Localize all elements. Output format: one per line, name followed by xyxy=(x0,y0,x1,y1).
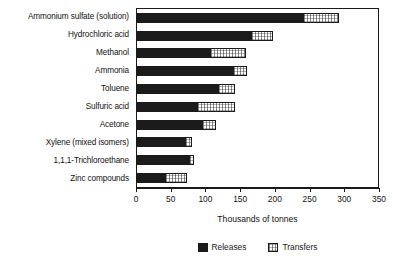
bar-segment-releases xyxy=(137,173,165,183)
chart-legend: Releases Transfers xyxy=(136,242,379,252)
x-axis-tick-label: 150 xyxy=(233,194,247,204)
category-label: Ammonia xyxy=(0,62,133,80)
bar-segment-releases xyxy=(137,120,202,130)
bar-segment-transfers xyxy=(202,120,216,130)
x-axis-tick-label: 200 xyxy=(268,194,282,204)
x-axis-title: Thousands of tonnes xyxy=(136,214,379,224)
bar-segment-transfers xyxy=(189,155,194,165)
bar-segment-transfers xyxy=(251,31,273,41)
legend-entry-releases: Releases xyxy=(198,242,247,252)
category-label: Hydrochloric acid xyxy=(0,26,133,44)
x-axis-tick xyxy=(171,188,172,192)
bar-stack xyxy=(137,66,247,76)
x-axis-tick xyxy=(275,188,276,192)
filled-black-swatch-icon xyxy=(198,243,208,252)
x-axis-tick xyxy=(379,188,380,192)
bar-segment-transfers xyxy=(197,102,235,112)
x-axis-tick xyxy=(310,188,311,192)
x-axis-tick-label: 100 xyxy=(198,194,212,204)
bar-stack xyxy=(137,173,187,183)
category-label: Toluene xyxy=(0,80,133,98)
legend-label: Releases xyxy=(212,242,247,252)
bar-segment-releases xyxy=(137,84,218,94)
legend-label: Transfers xyxy=(282,242,317,252)
bar-row xyxy=(137,134,378,152)
bar-stack xyxy=(137,137,192,147)
category-label: Xylene (mixed isomers) xyxy=(0,134,133,152)
bar-stack xyxy=(137,84,235,94)
stacked-bar-chart: Ammonium sulfate (solution) Hydrochloric… xyxy=(0,0,393,270)
bar-row xyxy=(137,116,378,134)
category-label: Acetone xyxy=(0,116,133,134)
bar-segment-transfers xyxy=(185,137,192,147)
bar-segment-transfers xyxy=(210,48,246,58)
bar-segment-releases xyxy=(137,155,189,165)
bar-segment-releases xyxy=(137,137,185,147)
bar-row xyxy=(137,62,378,80)
x-axis-tick-label: 350 xyxy=(372,194,386,204)
x-axis-tick xyxy=(344,188,345,192)
x-axis: 050100150200250300350 xyxy=(136,188,379,189)
bars-container xyxy=(137,9,378,187)
category-label: Zinc compounds xyxy=(0,170,133,188)
bar-segment-releases xyxy=(137,66,233,76)
bar-row xyxy=(137,27,378,45)
bar-stack xyxy=(137,31,273,41)
bar-stack xyxy=(137,48,246,58)
bar-stack xyxy=(137,155,194,165)
x-axis-tick xyxy=(240,188,241,192)
bar-row xyxy=(137,80,378,98)
bar-segment-transfers xyxy=(233,66,247,76)
bar-stack xyxy=(137,13,339,23)
x-axis-tick-label: 0 xyxy=(134,194,139,204)
x-axis-tick-label: 50 xyxy=(166,194,175,204)
bar-segment-transfers xyxy=(303,13,339,23)
bar-row xyxy=(137,9,378,27)
bar-stack xyxy=(137,102,235,112)
bar-row xyxy=(137,169,378,187)
category-label: Ammonium sulfate (solution) xyxy=(0,8,133,26)
bar-segment-releases xyxy=(137,13,303,23)
bar-segment-transfers xyxy=(218,84,235,94)
bar-stack xyxy=(137,120,216,130)
category-axis-labels: Ammonium sulfate (solution) Hydrochloric… xyxy=(0,8,133,188)
bar-segment-releases xyxy=(137,102,197,112)
x-axis-tick xyxy=(136,188,137,192)
category-label: 1,1,1-Trichloroethane xyxy=(0,152,133,170)
bar-row xyxy=(137,45,378,63)
bar-row xyxy=(137,98,378,116)
hatched-white-swatch-icon xyxy=(268,243,278,252)
category-label: Sulfuric acid xyxy=(0,98,133,116)
x-axis-tick-label: 300 xyxy=(337,194,351,204)
bar-segment-releases xyxy=(137,31,251,41)
x-axis-tick-label: 250 xyxy=(303,194,317,204)
plot-area xyxy=(136,8,379,188)
bar-segment-releases xyxy=(137,48,210,58)
category-label: Methanol xyxy=(0,44,133,62)
legend-entry-transfers: Transfers xyxy=(268,242,317,252)
x-axis-tick xyxy=(205,188,206,192)
bar-row xyxy=(137,151,378,169)
bar-segment-transfers xyxy=(165,173,187,183)
